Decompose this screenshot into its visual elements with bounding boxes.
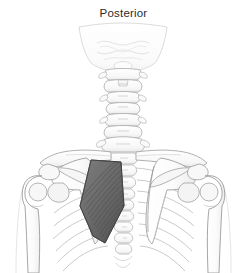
skeleton-illustration (0, 0, 247, 273)
anatomy-figure: Posterior (0, 0, 247, 273)
lower-thoracic-detail (114, 256, 132, 268)
scapula-right (146, 158, 208, 244)
humerus-right (200, 176, 225, 273)
occipital-bone (79, 23, 167, 72)
humerus-left (22, 176, 47, 273)
cervical-vertebrae (101, 69, 144, 153)
